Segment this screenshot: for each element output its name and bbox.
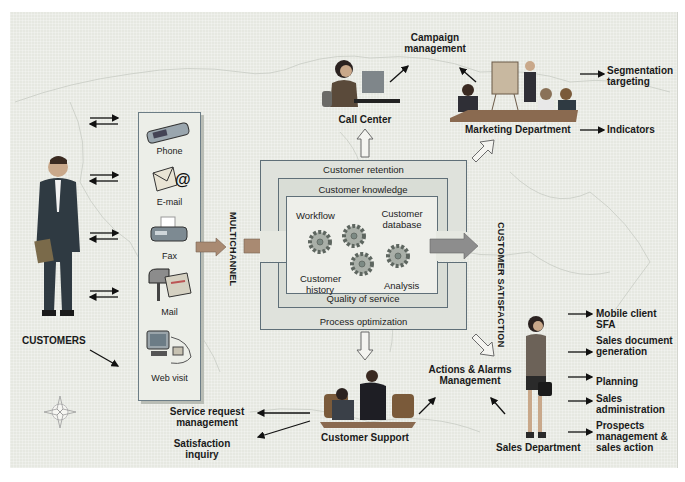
customer-support-label: Customer Support <box>310 432 420 443</box>
customer-knowledge-label: Customer knowledge <box>279 184 447 195</box>
actions-alarms-management-label: Actions & Alarms Management <box>420 364 520 386</box>
channel-email-label: E-mail <box>139 197 200 207</box>
planning-label: Planning <box>596 376 676 387</box>
email-icon: @ <box>151 165 191 193</box>
hollow-arrow-to-sales <box>470 332 498 358</box>
channel-mail-label: Mail <box>139 307 200 317</box>
sales-output-arrows <box>566 312 598 442</box>
sales-department-label: Sales Department <box>496 442 580 453</box>
channel-output-arrow <box>196 238 228 256</box>
multichannel-label: MULTICHANNEL <box>228 212 238 286</box>
marketing-output-arrows <box>578 70 608 140</box>
customer-database-label: Customer database <box>376 208 428 230</box>
phone-icon <box>145 121 195 143</box>
customer-satisfaction-arrow <box>430 233 480 259</box>
customer-satisfaction-label: CUSTOMER SATISFACTION <box>483 222 507 347</box>
computer-icon <box>145 327 195 367</box>
mobile-client-sfa-label: Mobile client SFA <box>596 308 676 330</box>
sales-person-icon <box>516 314 556 444</box>
channels-panel: Phone @ E-mail Fax Mail Web visit <box>138 112 201 401</box>
customers-label: CUSTOMERS <box>22 335 86 346</box>
channel-web-visit-label: Web visit <box>139 373 200 383</box>
segmentation-targeting-label: Segmentation targeting <box>607 65 685 87</box>
channel-fax-label: Fax <box>139 251 200 261</box>
prospects-management-label: Prospects management & sales action <box>596 420 685 453</box>
workflow-label: Workflow <box>296 210 335 221</box>
channel-phone-label: Phone <box>139 146 200 156</box>
process-gears-icon <box>306 228 436 288</box>
marketing-department-label: Marketing Department <box>465 124 571 135</box>
process-optimization-label: Process optimization <box>261 316 466 327</box>
indicators-label: Indicators <box>607 124 655 135</box>
customer-retention-label: Customer retention <box>261 164 466 175</box>
campaign-management-label: Campaign management <box>400 32 470 54</box>
customer-channel-arrows <box>88 116 128 316</box>
mailbox-icon <box>147 269 193 303</box>
customer-support-output-arrows <box>254 407 314 447</box>
marketing-meeting-icon <box>450 52 590 122</box>
hollow-arrow-to-call-center <box>357 129 373 159</box>
sales-administration-label: Sales administration <box>596 393 676 415</box>
diagram-canvas: CUSTOMERS Phone @ <box>10 12 678 468</box>
hollow-arrow-to-marketing <box>470 138 498 164</box>
hollow-arrow-to-customer-support <box>357 332 373 362</box>
actions-alarms-arrows <box>415 388 515 418</box>
sales-document-generation-label: Sales document generation <box>596 335 676 357</box>
customer-web-arrow <box>88 348 128 378</box>
svg-text:@: @ <box>175 171 191 188</box>
fax-icon <box>149 217 191 247</box>
customer-support-meeting-icon <box>320 364 420 430</box>
satisfaction-inquiry-label: Satisfaction inquiry <box>162 438 242 460</box>
call-center-label: Call Center <box>330 114 400 125</box>
compass-rose-icon <box>40 392 80 432</box>
service-request-management-label: Service request management <box>162 406 252 428</box>
customer-person-icon <box>26 152 86 327</box>
core-left-gap <box>260 231 286 261</box>
